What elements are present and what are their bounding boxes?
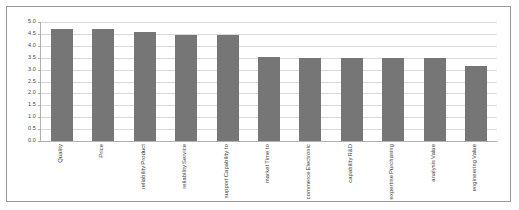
bar [382,58,404,141]
gridline [41,22,497,23]
bar [465,66,487,141]
y-axis-tick-label: 4.5 [28,31,36,37]
y-axis-tick [38,22,41,23]
y-axis-tick [38,34,41,35]
y-axis-tick [38,93,41,94]
x-axis-label-line: commerce [305,171,312,199]
y-axis-tick [38,82,41,83]
x-axis-label-line: Time to [264,144,271,164]
chart-figure: 5.04.54.03.53.02.52.01.51.00.50.0 Qualit… [0,0,519,210]
y-axis-tick-label: 5.0 [28,19,36,25]
x-axis-label-line: reliability [140,166,147,190]
x-axis-label-line: Value [430,144,437,159]
y-axis-tick-label: 2.0 [28,90,36,96]
y-axis-tick [38,58,41,59]
x-axis-label-line: market [264,165,271,183]
y-axis-tick-label: 3.0 [28,67,36,73]
y-axis-tick-label: 0.5 [28,126,36,132]
bar [175,35,197,141]
x-axis-label-line: support [223,178,230,198]
y-axis-tick [38,141,41,142]
x-axis-label-line: analysis [430,160,437,182]
bar [92,29,114,141]
y-axis-tick-label: 0.0 [28,138,36,144]
bar [217,35,239,141]
x-axis-label-line: Service [181,144,188,164]
x-axis-label-line: Capability to [223,144,230,177]
x-axis-label-line: reliability [181,165,188,189]
y-axis-tick-labels: 5.04.54.03.53.02.52.01.51.00.50.0 [14,22,36,142]
bar [134,32,156,141]
x-axis-category-labels: QualityPriceProductreliabilityServicerel… [40,143,497,203]
bar [341,58,363,141]
y-axis-tick [38,117,41,118]
bar [51,29,73,141]
x-axis-label-line: engineering [471,160,478,191]
y-axis-tick-label: 1.0 [28,114,36,120]
plot-area [40,22,497,142]
y-axis-tick-label: 1.5 [28,102,36,108]
x-axis-label-line: R&D [347,144,354,157]
y-axis-tick-label: 4.0 [28,43,36,49]
x-axis-label-line: Quality [57,144,64,163]
bar [258,57,280,141]
y-axis-tick [38,129,41,130]
x-axis-label-line: Purchasing [388,144,395,174]
y-axis-tick-label: 2.5 [28,79,36,85]
x-axis-label-line: Product [140,144,147,165]
bar [424,58,446,141]
x-axis-label-line: Electronic [305,144,312,170]
x-axis-label-line: Value [471,144,478,159]
x-axis-label-line: expertise [388,175,395,199]
y-axis-tick [38,46,41,47]
bar [299,58,321,141]
x-axis-label-line: capability [347,158,354,183]
y-axis-tick [38,70,41,71]
y-axis-tick-label: 3.5 [28,55,36,61]
y-axis-tick [38,105,41,106]
x-axis-label-line: Price [98,144,105,158]
